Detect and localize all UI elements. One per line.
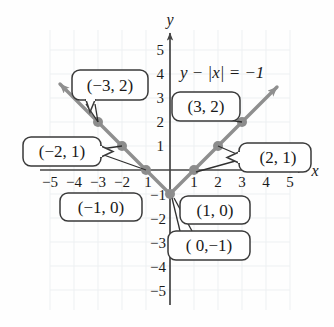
y-tick-neg2: −2	[150, 211, 166, 227]
callout-label-neg1-0: (−1, 0)	[78, 198, 124, 217]
y-tick-5: 5	[157, 42, 165, 58]
callout-label-3-2: (3, 2)	[188, 97, 225, 116]
x-tick-neg3: −3	[90, 174, 106, 190]
x-tick-5: 5	[286, 174, 294, 190]
x-tick-2: 2	[214, 174, 222, 190]
y-tick-neg4: −4	[150, 259, 166, 275]
y-tick-2: 2	[157, 114, 165, 130]
axis-label-x: x	[310, 162, 318, 179]
coordinate-plane: (−3, 2) (−2, 1) (−1, 0) ( 0,−1) (1, 0) (…	[0, 0, 334, 327]
x-tick-neg5: −5	[42, 174, 58, 190]
y-tick-4: 4	[157, 66, 165, 82]
callout-label-neg2-1: (−2, 1)	[39, 142, 85, 161]
callout-3-2[interactable]: (3, 2)	[172, 92, 240, 121]
x-tick-1: 1	[190, 174, 198, 190]
graph-figure: (−3, 2) (−2, 1) (−1, 0) ( 0,−1) (1, 0) (…	[0, 0, 334, 327]
callout-label-neg3-2: (−3, 2)	[87, 76, 133, 95]
callout-2-1[interactable]: (2, 1)	[227, 143, 311, 172]
callout-neg2-1[interactable]: (−2, 1)	[23, 137, 113, 166]
callout-label-2-1: (2, 1)	[260, 148, 297, 167]
y-tick-neg5: −5	[150, 283, 166, 299]
x-tick-4: 4	[262, 174, 270, 190]
callout-label-1-0: (1, 0)	[197, 201, 234, 220]
y-tick-neg3: −3	[150, 235, 166, 251]
x-tick-neg4: −4	[66, 174, 82, 190]
x-tick-3: 3	[238, 174, 246, 190]
callout-neg1-0[interactable]: (−1, 0)	[60, 193, 142, 221]
x-tick-neg2: −2	[114, 174, 130, 190]
y-tick-neg1: −1	[150, 187, 166, 203]
x-axis-tick-labels: −5 −4 −3 −2 1 1 2 3 4 5	[42, 174, 294, 190]
axis-label-y: y	[164, 11, 174, 29]
callout-0-neg1[interactable]: ( 0,−1)	[168, 231, 250, 260]
callout-label-0-neg1: ( 0,−1)	[186, 236, 232, 255]
equation-label: y − |x| = −1	[178, 63, 264, 82]
y-tick-3: 3	[157, 90, 165, 106]
data-point-0-neg1	[165, 189, 175, 199]
y-tick-1: 1	[157, 138, 165, 154]
callout-1-0[interactable]: (1, 0)	[180, 196, 250, 224]
